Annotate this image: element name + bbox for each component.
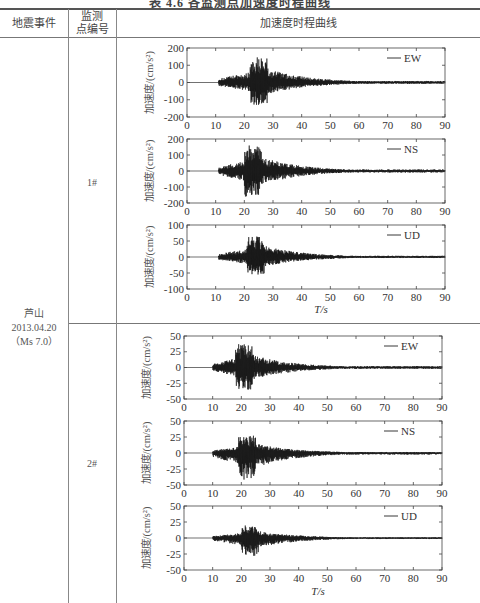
x-tick-label: 40 bbox=[293, 572, 305, 584]
waveform-line bbox=[184, 526, 442, 556]
y-tick-label: -100 bbox=[164, 283, 185, 295]
x-tick-label: 30 bbox=[265, 572, 277, 584]
waveform-line bbox=[187, 57, 445, 104]
legend-label: NS bbox=[401, 425, 415, 437]
x-axis-label: T/s bbox=[311, 585, 324, 597]
x-tick-label: 50 bbox=[325, 119, 337, 131]
chart-1-ns: 0102030405060708090-200-1000100200加速度/(c… bbox=[143, 133, 451, 218]
y-tick-label: -200 bbox=[164, 111, 185, 123]
x-tick-label: 0 bbox=[184, 205, 190, 217]
chart-2-ud: 0102030405060708090-50-2502550加速度/(cm/s²… bbox=[140, 500, 448, 598]
x-tick-label: 90 bbox=[437, 401, 449, 413]
chart-1-ew: 0102030405060708090-200-1000100200加速度/(c… bbox=[143, 42, 451, 132]
x-tick-label: 60 bbox=[354, 205, 366, 217]
x-tick-label: 40 bbox=[293, 487, 305, 499]
x-tick-label: 30 bbox=[268, 205, 280, 217]
y-tick-label: 200 bbox=[168, 133, 185, 145]
x-tick-label: 60 bbox=[351, 401, 363, 413]
x-tick-label: 90 bbox=[440, 119, 452, 131]
y-tick-label: 100 bbox=[168, 59, 185, 71]
chart-1-ud: 0102030405060708090-100-50050100加速度/(cm/… bbox=[143, 219, 451, 316]
x-tick-label: 30 bbox=[268, 291, 280, 303]
y-tick-label: 50 bbox=[173, 235, 185, 247]
y-tick-label: 100 bbox=[168, 149, 185, 161]
y-tick-label: 0 bbox=[176, 361, 182, 373]
x-tick-label: 20 bbox=[239, 205, 251, 217]
x-tick-label: 80 bbox=[408, 487, 420, 499]
x-tick-label: 10 bbox=[210, 291, 222, 303]
x-tick-label: 10 bbox=[210, 205, 222, 217]
x-tick-label: 20 bbox=[236, 401, 248, 413]
waveform-line bbox=[187, 237, 445, 275]
chart-2-ns: 0102030405060708090-50-2502550加速度/(cm/s²… bbox=[140, 415, 448, 500]
x-tick-label: 50 bbox=[322, 572, 334, 584]
x-tick-label: 10 bbox=[207, 572, 219, 584]
x-tick-label: 30 bbox=[265, 487, 277, 499]
y-tick-label: -100 bbox=[164, 181, 185, 193]
x-tick-label: 90 bbox=[440, 291, 452, 303]
x-tick-label: 80 bbox=[411, 291, 423, 303]
y-tick-label: 0 bbox=[179, 251, 185, 263]
y-tick-label: 0 bbox=[176, 532, 182, 544]
y-tick-label: -25 bbox=[166, 377, 181, 389]
y-axis-label: 加速度/(cm/s²) bbox=[143, 139, 156, 202]
x-tick-label: 50 bbox=[325, 205, 337, 217]
x-tick-label: 40 bbox=[293, 401, 305, 413]
x-tick-label: 20 bbox=[236, 487, 248, 499]
x-tick-label: 0 bbox=[181, 487, 187, 499]
x-tick-label: 90 bbox=[437, 572, 449, 584]
x-tick-label: 20 bbox=[236, 572, 248, 584]
y-tick-label: 25 bbox=[170, 516, 182, 528]
x-tick-label: 40 bbox=[296, 205, 308, 217]
y-tick-label: 25 bbox=[170, 431, 182, 443]
x-tick-label: 50 bbox=[322, 401, 334, 413]
x-axis-label: T/s bbox=[314, 303, 327, 315]
x-tick-label: 0 bbox=[184, 291, 190, 303]
x-tick-label: 0 bbox=[181, 401, 187, 413]
x-tick-label: 50 bbox=[325, 291, 337, 303]
x-tick-label: 70 bbox=[382, 119, 394, 131]
x-tick-label: 90 bbox=[440, 205, 452, 217]
y-axis-label: 加速度/(cm/s²) bbox=[143, 51, 156, 114]
x-tick-label: 60 bbox=[351, 487, 363, 499]
chart-2-ew: 0102030405060708090-50-2502550加速度/(cm/s²… bbox=[140, 330, 448, 414]
x-tick-label: 30 bbox=[268, 119, 280, 131]
x-tick-label: 70 bbox=[382, 291, 394, 303]
x-tick-label: 80 bbox=[408, 401, 420, 413]
y-axis-label: 加速度/(cm/s²) bbox=[140, 506, 153, 569]
x-tick-label: 70 bbox=[379, 487, 391, 499]
y-tick-label: -50 bbox=[169, 267, 184, 279]
y-tick-label: 0 bbox=[179, 165, 185, 177]
acceleration-charts: 0102030405060708090-200-1000100200加速度/(c… bbox=[0, 0, 480, 603]
x-tick-label: 80 bbox=[411, 205, 423, 217]
y-tick-label: -25 bbox=[166, 548, 181, 560]
y-axis-label: 加速度/(cm/s²) bbox=[140, 421, 153, 484]
x-tick-label: 20 bbox=[239, 291, 251, 303]
x-tick-label: 90 bbox=[437, 487, 449, 499]
y-axis-label: 加速度/(cm/s²) bbox=[143, 225, 156, 288]
y-tick-label: 0 bbox=[179, 76, 185, 88]
x-tick-label: 40 bbox=[296, 291, 308, 303]
waveform-line bbox=[184, 436, 442, 480]
x-tick-label: 30 bbox=[265, 401, 277, 413]
legend-label: NS bbox=[404, 143, 418, 155]
y-tick-label: 50 bbox=[170, 415, 182, 427]
x-tick-label: 10 bbox=[207, 401, 219, 413]
legend-label: EW bbox=[404, 52, 422, 64]
y-tick-label: 50 bbox=[170, 500, 182, 512]
x-tick-label: 70 bbox=[382, 205, 394, 217]
x-tick-label: 60 bbox=[351, 572, 363, 584]
x-tick-label: 70 bbox=[379, 572, 391, 584]
y-tick-label: -50 bbox=[166, 393, 181, 405]
x-tick-label: 10 bbox=[207, 487, 219, 499]
x-tick-label: 60 bbox=[354, 291, 366, 303]
y-tick-label: -25 bbox=[166, 463, 181, 475]
x-tick-label: 80 bbox=[408, 572, 420, 584]
legend-label: UD bbox=[401, 510, 417, 522]
x-tick-label: 10 bbox=[210, 119, 222, 131]
x-tick-label: 60 bbox=[354, 119, 366, 131]
y-tick-label: -200 bbox=[164, 197, 185, 209]
legend-label: EW bbox=[401, 340, 419, 352]
x-tick-label: 70 bbox=[379, 401, 391, 413]
legend-label: UD bbox=[404, 229, 420, 241]
